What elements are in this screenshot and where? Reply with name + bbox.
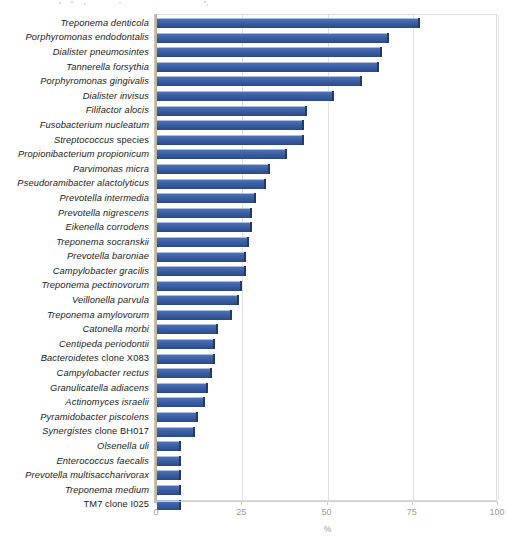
bar-track	[157, 162, 498, 177]
category-label: Pseudoramibacter alactolyticus	[0, 178, 149, 189]
x-tick	[327, 501, 328, 505]
bar[interactable]	[157, 252, 246, 262]
bar-row[interactable]: Treponema pectinovorum	[0, 279, 509, 294]
bar[interactable]	[157, 368, 212, 378]
bar[interactable]	[157, 427, 195, 437]
bar-row[interactable]: Olsenella uli	[0, 439, 509, 454]
bar-row[interactable]: Treponema amylovorum	[0, 308, 509, 323]
category-label: Parvimonas micra	[0, 164, 149, 175]
bar[interactable]	[157, 485, 181, 495]
bar-row[interactable]: Synergistes clone BH017	[0, 425, 509, 440]
bar-row[interactable]: Dialister pneumosintes	[0, 45, 509, 60]
category-label: Treponema amylovorum	[0, 310, 149, 321]
bar[interactable]	[157, 281, 242, 291]
bar[interactable]	[157, 91, 334, 101]
x-axis-title-text: %	[324, 524, 332, 534]
bar-track	[157, 381, 498, 396]
bar[interactable]	[157, 383, 208, 393]
category-label: Eikenella corrodens	[0, 222, 149, 233]
bar-row[interactable]: TM7 clone I025	[0, 498, 509, 513]
bar[interactable]	[157, 149, 287, 159]
bar[interactable]	[157, 208, 252, 218]
category-label: Granulicatella adiacens	[0, 383, 149, 394]
bar-row[interactable]: Treponema socranskii	[0, 235, 509, 250]
bar-row[interactable]: Actinomyces israelii	[0, 395, 509, 410]
bar-row[interactable]: Treponema medium	[0, 483, 509, 498]
bar-track	[157, 104, 498, 119]
bar-row[interactable]: Propionibacterium propionicum	[0, 147, 509, 162]
bar[interactable]	[157, 18, 420, 28]
category-label: Enterococcus faecalis	[0, 456, 149, 467]
bar-row[interactable]: Pyramidobacter piscolens	[0, 410, 509, 425]
category-label: Olsenella uli	[0, 441, 149, 452]
bar-row[interactable]: Campylobacter gracilis	[0, 264, 509, 279]
category-label: Treponema denticola	[0, 18, 149, 29]
bar[interactable]	[157, 441, 181, 451]
bar[interactable]	[157, 222, 252, 232]
bar-row[interactable]: Filifactor alocis	[0, 104, 509, 119]
bar-row[interactable]: Parvimonas micra	[0, 162, 509, 177]
bar-row[interactable]: Porphyromonas endodontalis	[0, 31, 509, 46]
bar[interactable]	[157, 193, 256, 203]
bar-row[interactable]: Porphyromonas gingivalis	[0, 74, 509, 89]
bar[interactable]	[157, 33, 389, 43]
bar[interactable]	[157, 164, 270, 174]
bar-track	[157, 395, 498, 410]
bar-track	[157, 279, 498, 294]
category-label: Prevotella multisaccharivorax	[0, 470, 149, 481]
bar-chart: Treponema denticolaPorphyromonas endodon…	[0, 0, 509, 545]
bar[interactable]	[157, 266, 246, 276]
bar[interactable]	[157, 412, 198, 422]
x-tick	[156, 501, 157, 505]
bar-row[interactable]: Prevotella multisaccharivorax	[0, 468, 509, 483]
bar-row[interactable]: Eikenella corrodens	[0, 220, 509, 235]
bar[interactable]	[157, 179, 266, 189]
bar-track	[157, 89, 498, 104]
bar-row[interactable]: Fusobacterium nucleatum	[0, 118, 509, 133]
bar[interactable]	[157, 76, 362, 86]
bar-row[interactable]: Prevotella nigrescens	[0, 206, 509, 221]
bar-row[interactable]: Granulicatella adiacens	[0, 381, 509, 396]
bar[interactable]	[157, 62, 379, 72]
bar-track	[157, 220, 498, 235]
bar[interactable]	[157, 470, 181, 480]
x-axis-title: %	[0, 524, 509, 534]
bar-row[interactable]: Centipeda periodontii	[0, 337, 509, 352]
bar-track	[157, 60, 498, 75]
bar-track	[157, 118, 498, 133]
x-tick-label: 0	[153, 507, 158, 517]
bar[interactable]	[157, 324, 218, 334]
bar-track	[157, 337, 498, 352]
bar[interactable]	[157, 47, 382, 57]
bar[interactable]	[157, 120, 304, 130]
bar[interactable]	[157, 354, 215, 364]
bar[interactable]	[157, 397, 205, 407]
bar-track	[157, 410, 498, 425]
bar-row[interactable]: Tannerella forsythia	[0, 60, 509, 75]
category-label: Campylobacter rectus	[0, 368, 149, 379]
category-label: TM7 clone I025	[0, 499, 149, 510]
x-tick	[497, 501, 498, 505]
bar-row[interactable]: Veillonella parvula	[0, 293, 509, 308]
bar-row[interactable]: Enterococcus faecalis	[0, 454, 509, 469]
bar-row[interactable]: Prevotella baroniae	[0, 250, 509, 265]
bar[interactable]	[157, 310, 232, 320]
bar-row[interactable]: Campylobacter rectus	[0, 366, 509, 381]
bar-row[interactable]: Treponema denticola	[0, 16, 509, 31]
bar-row[interactable]: Streptococcus species	[0, 133, 509, 148]
bar[interactable]	[157, 456, 181, 466]
bar[interactable]	[157, 237, 249, 247]
category-label: Propionibacterium propionicum	[0, 149, 149, 160]
bar-row[interactable]: Prevotella intermedia	[0, 191, 509, 206]
bar-row[interactable]: Bacteroidetes clone X083	[0, 352, 509, 367]
category-label: Treponema pectinovorum	[0, 280, 149, 291]
bar[interactable]	[157, 339, 215, 349]
bar-row[interactable]: Dialister invisus	[0, 89, 509, 104]
bar-row[interactable]: Pseudoramibacter alactolyticus	[0, 177, 509, 192]
bar-row[interactable]: Catonella morbi	[0, 322, 509, 337]
bar[interactable]	[157, 106, 307, 116]
x-tick-label: 25	[236, 507, 246, 517]
bar-track	[157, 133, 498, 148]
bar[interactable]	[157, 295, 239, 305]
bar[interactable]	[157, 135, 304, 145]
